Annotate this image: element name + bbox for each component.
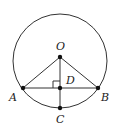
segment-oa bbox=[23, 57, 60, 88]
point-o bbox=[58, 55, 62, 59]
point-c bbox=[58, 106, 62, 110]
label-o: O bbox=[56, 40, 65, 53]
label-a: A bbox=[8, 91, 17, 104]
label-b: B bbox=[100, 91, 109, 104]
point-b bbox=[96, 86, 100, 90]
label-c: C bbox=[56, 113, 65, 126]
point-a bbox=[21, 86, 25, 90]
circle-diagram: O D A B C bbox=[0, 0, 115, 128]
label-d: D bbox=[65, 74, 75, 87]
point-d bbox=[58, 86, 62, 90]
